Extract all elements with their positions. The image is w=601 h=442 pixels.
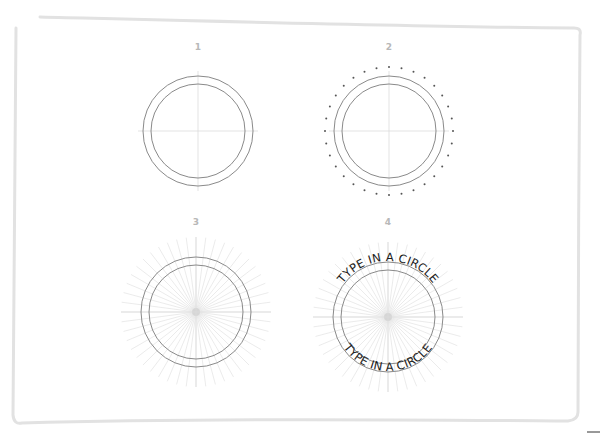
radial-ray <box>124 293 196 312</box>
radial-ray <box>177 240 196 312</box>
guide-dot <box>364 71 366 73</box>
guide-dot <box>343 175 345 177</box>
radial-ray <box>388 298 460 317</box>
guide-dot <box>352 183 354 185</box>
radial-ray <box>196 312 268 331</box>
guide-dot <box>412 189 414 191</box>
guide-dot <box>335 94 337 96</box>
guide-dot <box>433 85 435 87</box>
radial-ray <box>143 312 196 365</box>
guide-dot <box>364 189 366 191</box>
step-label-2: 2 <box>386 42 392 52</box>
radial-ray <box>196 240 215 312</box>
guide-dot <box>400 193 402 195</box>
radial-ray <box>196 293 268 312</box>
guide-dot <box>324 130 326 132</box>
guide-dot <box>441 94 443 96</box>
guide-dot <box>441 166 443 168</box>
radial-ray <box>177 312 196 384</box>
step-3 <box>121 237 271 387</box>
guide-dot <box>451 142 453 144</box>
guide-dot <box>352 77 354 79</box>
radial-ray <box>196 312 249 365</box>
radial-ray <box>369 317 388 389</box>
guide-dot <box>325 142 327 144</box>
guide-dot <box>447 106 449 108</box>
guide-dot <box>447 154 449 156</box>
radial-ray <box>316 298 388 317</box>
guide-dot <box>424 183 426 185</box>
guide-dot <box>388 194 390 196</box>
guide-dot <box>329 106 331 108</box>
radial-ray <box>388 317 460 336</box>
step-label-1: 1 <box>195 42 201 52</box>
guide-dot <box>325 118 327 120</box>
step-label-4: 4 <box>385 217 391 227</box>
radial-ray <box>124 312 196 331</box>
guide-dot <box>335 166 337 168</box>
guide-dot <box>400 67 402 69</box>
step-2 <box>324 66 454 196</box>
guide-dot <box>433 175 435 177</box>
radial-ray <box>143 259 196 312</box>
step-1 <box>138 71 258 191</box>
sketch-frame <box>13 17 580 423</box>
guide-dot <box>451 118 453 120</box>
radial-ray <box>388 317 407 389</box>
guide-dot <box>424 77 426 79</box>
guide-dot <box>376 67 378 69</box>
guide-dot <box>329 154 331 156</box>
radial-ray <box>196 259 249 312</box>
guide-dot <box>343 85 345 87</box>
guide-dot <box>412 71 414 73</box>
radial-ray <box>196 312 215 384</box>
type-in-circle-diagram: 1 2 3 4 TYPE IN A CIRCLE TYPE IN A CIRCL… <box>0 0 601 442</box>
guide-dot <box>376 193 378 195</box>
guide-dot <box>388 66 390 68</box>
guide-dot <box>452 130 454 132</box>
radial-ray <box>316 317 388 336</box>
step-label-3: 3 <box>193 217 199 227</box>
